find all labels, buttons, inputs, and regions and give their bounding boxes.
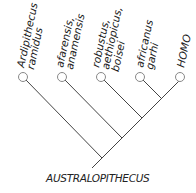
label-homo: HOMO: [174, 33, 193, 68]
branch-robustus: [104, 80, 142, 118]
label-robustus: robustus, aethiopicus, boisei: [89, 3, 134, 72]
cladogram: Ardipithecus ramidus afarensis, anamensi…: [0, 0, 196, 193]
node-robustus: [97, 73, 106, 82]
node-afarensis: [58, 73, 67, 82]
label-ardipithecus: Ardipithecus ramidus: [14, 1, 50, 71]
root-label: AUSTRALOPITHECUS: [45, 172, 150, 184]
node-homo: [176, 73, 185, 82]
label-africanus: africanus garhi: [133, 18, 165, 70]
trunk-line: [92, 80, 180, 168]
branch-ardipithecus: [26, 80, 102, 158]
svg-text:HOMO: HOMO: [174, 33, 193, 68]
branch-africanus: [143, 80, 161, 98]
node-africanus: [136, 73, 145, 82]
node-ardipithecus: [19, 73, 28, 82]
label-afarensis: afarensis, anamensis: [53, 10, 86, 71]
